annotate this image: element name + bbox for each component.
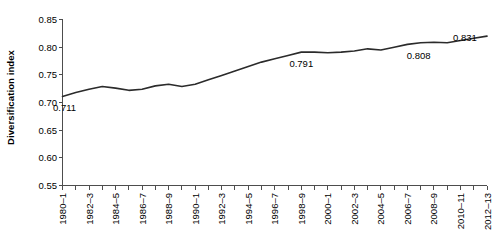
x-tick-label: 2000–1 (322, 193, 333, 225)
x-tick-label: 2008–9 (428, 193, 439, 225)
plot-area: 0.550.600.650.700.750.800.85 1980–11982–… (0, 0, 500, 244)
diversification-index-chart: Diversification index 0.550.600.650.700.… (0, 0, 500, 244)
y-tick-label: 0.55 (39, 180, 58, 191)
y-tick-label: 0.85 (39, 14, 58, 25)
x-tick-label: 2002–3 (349, 193, 360, 225)
x-tick-label: 2012–13 (482, 193, 493, 230)
data-annotation-label: 0.791 (289, 58, 313, 69)
x-tick-marks (63, 186, 488, 190)
x-tick-label: 2010–11 (455, 193, 466, 229)
x-tick-label: 1992–3 (216, 193, 227, 225)
y-tick-label: 0.65 (39, 125, 58, 136)
x-tick-label: 1988–9 (163, 193, 174, 225)
y-tick-label: 0.80 (39, 42, 58, 53)
y-tick-label: 0.60 (39, 152, 58, 163)
data-annotation-label: 0.711 (53, 102, 76, 113)
x-tick-label: 1996–7 (269, 193, 280, 225)
x-tick-label: 1982–3 (84, 193, 95, 225)
x-tick-label: 1980–1 (57, 193, 68, 225)
x-tick-label: 1984–5 (110, 193, 121, 225)
diversification-index-line (63, 36, 488, 96)
x-tick-label: 1990–1 (190, 193, 201, 225)
x-tick-labels: 1980–11982–31984–51986–71988–91990–11992… (57, 193, 493, 230)
x-tick-label: 1986–7 (137, 193, 148, 225)
data-annotation-label: 0.808 (407, 50, 431, 61)
x-tick-label: 2006–7 (402, 193, 413, 225)
data-annotation-label: 0.831 (453, 32, 477, 43)
x-tick-label: 2004–5 (375, 193, 386, 225)
x-tick-label: 1994–5 (243, 193, 254, 225)
x-tick-label: 1998–9 (296, 193, 307, 225)
y-tick-label: 0.75 (39, 69, 58, 80)
